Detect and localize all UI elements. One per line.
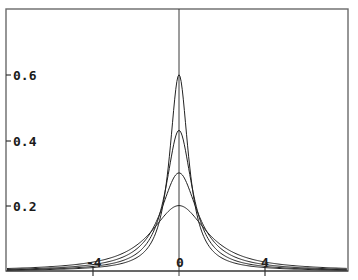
y-tick-label-0.2: 0.2 (13, 199, 36, 214)
curve-1 (7, 75, 347, 270)
y-tick-label-0.6: 0.6 (13, 68, 37, 83)
y-ticks: 0.6 0.4 0.2 (6, 68, 37, 214)
y-tick-label-0.4: 0.4 (13, 134, 37, 149)
cauchy-density-chart: 0.6 0.4 0.2 -4 0 4 (0, 0, 358, 280)
density-curves (7, 75, 347, 270)
plot-frame (6, 9, 348, 271)
curve-2 (7, 130, 347, 269)
x-tick-label-0: 0 (176, 255, 184, 270)
